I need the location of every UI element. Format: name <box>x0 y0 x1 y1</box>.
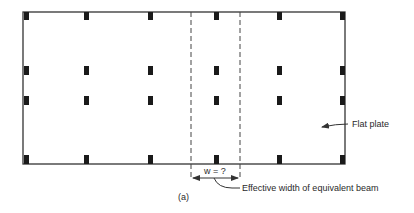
column <box>214 96 219 105</box>
column <box>214 155 219 164</box>
width-caption: Effective width of equivalent beam <box>242 183 378 193</box>
column-grid <box>24 12 345 164</box>
column <box>84 66 89 75</box>
column <box>340 66 345 75</box>
column <box>277 66 282 75</box>
figure-label: (a) <box>178 192 189 202</box>
column <box>24 155 29 164</box>
column <box>340 12 345 20</box>
column <box>24 12 29 20</box>
column <box>340 96 345 105</box>
column <box>277 12 282 20</box>
column <box>84 155 89 164</box>
column <box>148 12 153 20</box>
column <box>148 96 153 105</box>
caption-leader-line <box>214 178 240 188</box>
plate-label: Flat plate <box>352 119 389 129</box>
column <box>84 96 89 105</box>
flat-plate-diagram: w = ? Effective width of equivalent beam… <box>0 0 414 213</box>
column <box>148 66 153 75</box>
column <box>84 12 89 20</box>
column <box>214 12 219 20</box>
column <box>24 96 29 105</box>
width-label: w = ? <box>203 166 226 176</box>
column <box>277 96 282 105</box>
column <box>24 66 29 75</box>
column <box>214 66 219 75</box>
column <box>148 155 153 164</box>
plate-leader-line <box>322 124 348 127</box>
flat-plate-outline <box>23 12 345 164</box>
column <box>277 155 282 164</box>
column <box>340 155 345 164</box>
